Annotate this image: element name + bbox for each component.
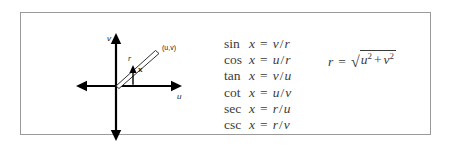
denominator-cos: r	[285, 52, 290, 68]
function-name-cos: cos	[224, 52, 249, 68]
equals-sign-tan: =	[256, 68, 273, 84]
u-axis-left-arrowhead	[76, 81, 87, 91]
identity-row-cot: cot x = u / v	[224, 85, 329, 101]
function-arg-tan: x	[249, 68, 256, 84]
radius-formula-equals: =	[333, 54, 351, 70]
v-axis-up-arrowhead	[111, 33, 121, 44]
v-axis-label: v	[107, 34, 112, 43]
point-label: (u,v)	[162, 44, 176, 52]
angle-label: x	[138, 65, 143, 74]
function-name-cot: cot	[224, 85, 249, 101]
identity-row-cos: cos x = u / r	[224, 52, 329, 68]
identity-row-tan: tan x = v / u	[224, 68, 329, 84]
uv-plane-svg: v u (u,v) r x	[76, 27, 201, 145]
radicand: u2+v2	[360, 50, 396, 68]
function-arg-cos: x	[249, 52, 256, 68]
square-root-group: √ u2+v2	[351, 53, 396, 71]
equals-sign-cot: =	[256, 85, 273, 101]
numerator-cot: u	[273, 85, 280, 101]
u-axis-right-arrowhead	[171, 81, 182, 91]
numerator-cos: u	[273, 52, 280, 68]
equals-sign-csc: =	[256, 117, 273, 133]
denominator-cot: v	[285, 85, 291, 101]
trig-identity-list: sin x = v / r cos x = u / r tan x = v /	[224, 36, 329, 133]
identity-row-csc: csc x = r / v	[224, 117, 329, 133]
denominator-sin: r	[284, 36, 289, 52]
denominator-sec: u	[284, 101, 291, 117]
identity-row-sec: sec x = r / u	[224, 101, 329, 117]
equals-sign-sec: =	[256, 101, 273, 117]
equals-sign-cos: =	[256, 52, 273, 68]
radius-label: r	[128, 54, 132, 63]
identity-row-sin: sin x = v / r	[224, 36, 329, 52]
figure-frame: v u (u,v) r x sin x = v / r cos x = u	[20, 12, 431, 135]
radius-formula: r = √ u2+v2	[328, 53, 396, 71]
u-axis-label: u	[177, 92, 182, 101]
radicand-operator: +	[372, 52, 384, 67]
denominator-csc: v	[284, 117, 290, 133]
function-name-sin: sin	[224, 36, 249, 52]
function-name-csc: csc	[224, 117, 249, 133]
function-arg-sec: x	[249, 101, 256, 117]
function-arg-sin: x	[249, 36, 256, 52]
function-arg-cot: x	[249, 85, 256, 101]
trig-definitions-figure: v u (u,v) r x sin x = v / r cos x = u	[0, 0, 452, 146]
v-axis-down-arrowhead	[111, 130, 121, 141]
function-name-sec: sec	[224, 101, 249, 117]
uv-plane-diagram: v u (u,v) r x	[76, 27, 201, 145]
radical-sign-icon: √	[351, 54, 360, 72]
denominator-tan: u	[284, 68, 291, 84]
equals-sign-sin: =	[256, 36, 273, 52]
function-name-tan: tan	[224, 68, 249, 84]
function-arg-csc: x	[249, 117, 256, 133]
radicand-exponent-2: 2	[390, 51, 395, 61]
